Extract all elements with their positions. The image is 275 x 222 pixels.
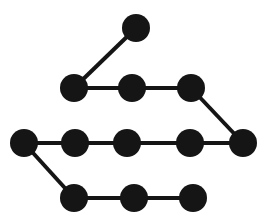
graph-node[interactable] (60, 184, 88, 212)
graph-node[interactable] (120, 184, 148, 212)
graph-node[interactable] (179, 184, 207, 212)
graph-node[interactable] (10, 129, 38, 157)
graph-node[interactable] (229, 129, 257, 157)
graph-node[interactable] (177, 74, 205, 102)
graph-node[interactable] (61, 129, 89, 157)
graph-node[interactable] (176, 129, 204, 157)
graph-node[interactable] (118, 74, 146, 102)
node-layer (10, 14, 257, 212)
graph-node[interactable] (113, 129, 141, 157)
graph-svg (0, 0, 275, 222)
graph-node[interactable] (122, 14, 150, 42)
graph-canvas (0, 0, 275, 222)
graph-node[interactable] (60, 74, 88, 102)
edge-layer (24, 28, 243, 198)
